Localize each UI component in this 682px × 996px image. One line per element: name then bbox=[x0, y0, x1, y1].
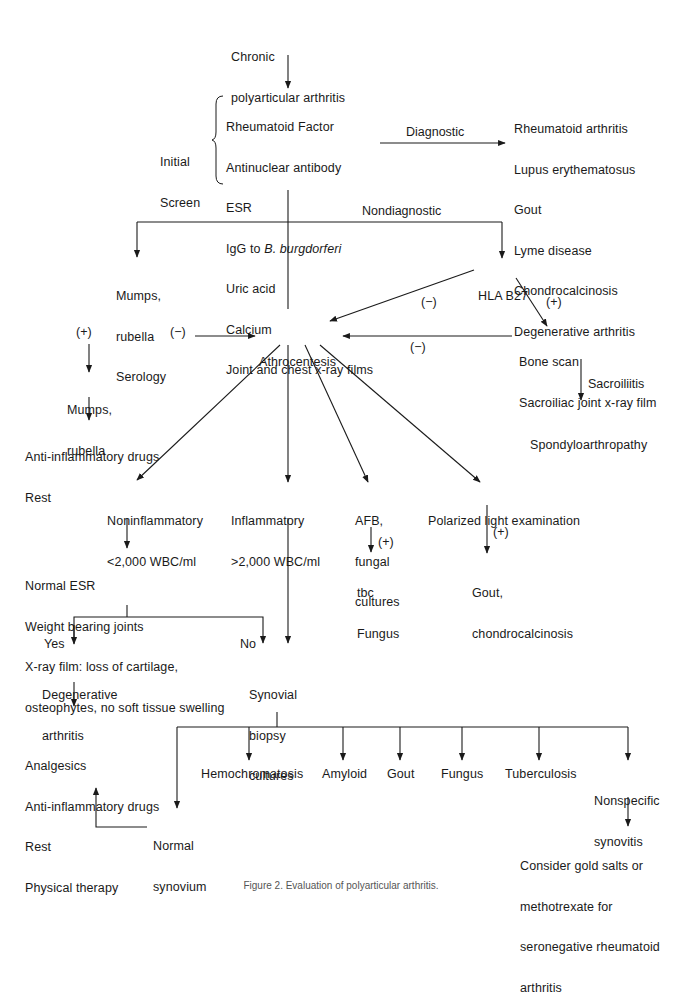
node-line: Normal bbox=[153, 840, 207, 854]
edge-label-hla-negative: (−) bbox=[421, 295, 437, 309]
node-athrocentesis: Athrocentesis bbox=[259, 329, 336, 397]
node-synovial-biopsy: Synovial biopsy cultures bbox=[249, 662, 297, 811]
node-line: Uric acid bbox=[226, 283, 373, 297]
node-line: Sacroiliac joint x-ray film bbox=[519, 397, 656, 411]
figure-caption: Figure 2. Evaluation of polyarticular ar… bbox=[0, 880, 682, 891]
node-line: Mumps, bbox=[67, 404, 112, 418]
node-line: Spondyloarthropathy bbox=[530, 439, 647, 453]
node-line: Rheumatoid Factor bbox=[226, 121, 373, 135]
node-line: Nonspecific bbox=[594, 795, 660, 809]
node-line: Gout, bbox=[472, 587, 573, 601]
node-line: Normal ESR bbox=[25, 580, 225, 594]
edge-label-sacroiliitis: Sacroiliitis bbox=[588, 377, 644, 391]
node-line: Lyme disease bbox=[514, 245, 635, 259]
node-line: HLA B27 bbox=[478, 290, 528, 304]
node-line: rubella bbox=[116, 331, 166, 345]
node-line: Noninflammatory bbox=[107, 515, 203, 529]
node-line: Lupus erythematosus bbox=[514, 164, 635, 178]
organism-name: B. burgdorferi bbox=[264, 242, 341, 256]
edge-label-serology-negative: (−) bbox=[170, 325, 186, 339]
node-polarized-light: Polarized light examination bbox=[428, 488, 580, 556]
node-line: Fungus bbox=[441, 768, 483, 782]
node-line: biopsy bbox=[249, 730, 297, 744]
node-mumps-rubella-serology: Mumps, rubella Serology bbox=[116, 263, 166, 412]
edge-label-no: No bbox=[240, 637, 256, 651]
node-normal-synovium: Normal synovium bbox=[153, 813, 207, 921]
node-line: Anti-inflammatory drugs bbox=[25, 801, 159, 815]
node-line: Analgesics bbox=[25, 760, 159, 774]
node-line: Chronic bbox=[231, 51, 345, 65]
node-spondyloarthropathy: Spondyloarthropathy bbox=[530, 412, 647, 480]
node-line: Tuberculosis bbox=[505, 768, 577, 782]
node-line: Consider gold salts or bbox=[520, 860, 660, 874]
edge-label-polarized-positive: (+) bbox=[493, 525, 509, 539]
edge-label-serology-positive: (+) bbox=[76, 325, 92, 339]
node-tuberculosis: Tuberculosis bbox=[505, 768, 577, 782]
node-amyloid: Amyloid bbox=[322, 768, 367, 782]
node-line: methotrexate for bbox=[520, 901, 660, 915]
node-line: arthritis bbox=[520, 982, 660, 996]
node-line: Anti-inflammatory drugs bbox=[25, 451, 159, 465]
node-gout: Gout bbox=[387, 768, 415, 782]
node-line: Rest bbox=[25, 841, 159, 855]
node-inflammatory: Inflammatory >2,000 WBC/ml bbox=[231, 488, 320, 596]
node-line: Antinuclear antibody bbox=[226, 162, 373, 176]
node-line: chondrocalcinosis bbox=[472, 628, 573, 642]
node-line: Gout bbox=[387, 768, 415, 782]
node-line: Chondrocalcinosis bbox=[514, 285, 635, 299]
node-hla-b27: HLA B27 bbox=[478, 263, 528, 331]
node-line: Amyloid bbox=[322, 768, 367, 782]
node-gout-chondrocalcinosis: Gout, chondrocalcinosis bbox=[472, 560, 573, 668]
node-fungus: Fungus bbox=[441, 768, 483, 782]
node-line: Rheumatoid arthritis bbox=[514, 123, 635, 137]
node-diagnostic-results: Rheumatoid arthritis Lupus erythematosus… bbox=[514, 96, 635, 366]
edge-label-bone-scan-negative: (−) bbox=[410, 340, 426, 354]
node-line: Hemochromatosis bbox=[201, 768, 303, 782]
node-line: Initial bbox=[160, 156, 200, 170]
edge-label-afb-positive: (+) bbox=[378, 535, 394, 549]
edge-label-nondiagnostic: Nondiagnostic bbox=[362, 204, 441, 218]
node-line: Screen bbox=[160, 197, 200, 211]
node-consider-gold-salts: Consider gold salts or methotrexate for … bbox=[520, 833, 660, 996]
node-line: seronegative rheumatoid bbox=[520, 941, 660, 955]
node-line: Fungus bbox=[357, 628, 399, 642]
edge-label-hla-positive: (+) bbox=[546, 295, 562, 309]
node-treatment: Analgesics Anti-inflammatory drugs Rest … bbox=[25, 733, 159, 922]
label-initial-screen: Initial Screen bbox=[160, 129, 200, 237]
node-line-igg: IgG to B. burgdorferi bbox=[226, 243, 373, 257]
node-line: Degenerative bbox=[42, 689, 118, 703]
node-line: Mumps, bbox=[116, 290, 166, 304]
node-line: Synovial bbox=[249, 689, 297, 703]
node-line: tbc bbox=[357, 587, 399, 601]
node-line: Weight bearing joints bbox=[25, 621, 225, 635]
node-line: ESR bbox=[226, 202, 373, 216]
edge-label-yes: Yes bbox=[44, 637, 64, 651]
edge-label-diagnostic: Diagnostic bbox=[406, 125, 464, 139]
node-line: Bone scan bbox=[519, 356, 656, 370]
node-line: Gout bbox=[514, 204, 635, 218]
node-line: Inflammatory bbox=[231, 515, 320, 529]
node-line: >2,000 WBC/ml bbox=[231, 556, 320, 570]
node-line: Athrocentesis bbox=[259, 356, 336, 370]
node-line: IgG to bbox=[226, 242, 264, 256]
node-line: Serology bbox=[116, 371, 166, 385]
node-hemochromatosis: Hemochromatosis bbox=[201, 768, 303, 782]
node-line: AFB, bbox=[355, 515, 400, 529]
node-tbc-fungus: tbc Fungus bbox=[357, 560, 399, 668]
